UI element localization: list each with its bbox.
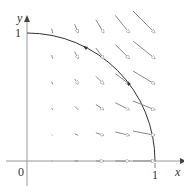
curve-arrow-icon xyxy=(83,46,88,50)
y-axis-label: y xyxy=(17,12,22,24)
field-arrow-icon xyxy=(96,20,104,33)
x-axis-label: x xyxy=(175,166,180,178)
field-arrow-icon xyxy=(75,24,79,33)
field-arrow-icon xyxy=(115,103,129,110)
field-arrow-icon xyxy=(133,71,155,84)
field-arrow-icon xyxy=(75,52,79,59)
field-arrow-icon xyxy=(52,108,53,110)
field-arrow-icon xyxy=(115,132,129,136)
field-arrow-icon xyxy=(96,105,104,110)
field-arrow-icon xyxy=(52,29,53,33)
field-arrow-icon xyxy=(75,79,79,84)
x-tick-label: 1 xyxy=(152,169,158,181)
field-arrow-icon xyxy=(115,15,129,33)
y-tick-label: 1 xyxy=(15,27,21,39)
x-axis-arrow-icon xyxy=(180,158,184,164)
field-arrow-icon xyxy=(133,41,155,59)
y-axis-arrow-icon xyxy=(24,15,30,22)
field-arrow-icon xyxy=(115,45,129,59)
origin-label: 0 xyxy=(18,166,24,178)
field-arrow-icon xyxy=(52,55,53,59)
vector-field-figure xyxy=(0,0,184,191)
field-arrow-icon xyxy=(96,133,104,136)
field-arrow-icon xyxy=(75,106,79,110)
field-arrow-icon xyxy=(52,82,53,85)
field-arrow-icon xyxy=(133,11,155,33)
field-arrow-icon xyxy=(52,135,53,136)
field-arrow-icon xyxy=(75,134,79,136)
vector-field-arrows xyxy=(52,11,155,161)
quarter-circle-curve xyxy=(27,33,155,161)
field-arrow-icon xyxy=(96,76,104,84)
